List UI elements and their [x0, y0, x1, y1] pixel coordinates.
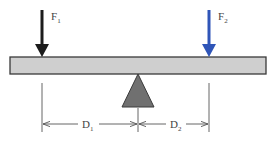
lever-diagram: F1 F2 D1 D2	[0, 0, 271, 142]
force-arrow-f2-head	[202, 44, 216, 57]
force-arrow-f2	[202, 10, 216, 57]
force-arrow-f1	[35, 10, 49, 57]
fulcrum-triangle	[122, 74, 154, 107]
force-label-f2: F2	[218, 10, 228, 25]
dimension-label-d2: D2	[170, 118, 182, 133]
force-label-f1: F1	[51, 10, 61, 25]
force-arrow-f1-head	[35, 44, 49, 57]
dimension-label-d1: D1	[82, 118, 94, 133]
lever-beam	[10, 57, 266, 74]
